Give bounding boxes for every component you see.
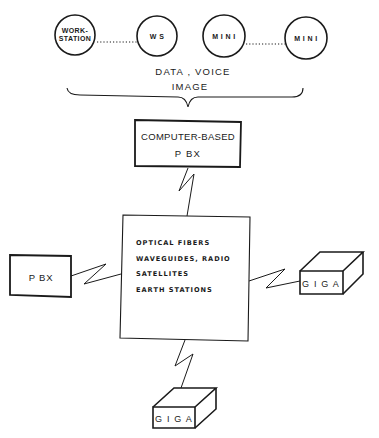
- mini-2-label: M I N I: [294, 35, 317, 42]
- wireless-link-right: [249, 269, 300, 288]
- node-mini-2: M I N I: [285, 17, 327, 59]
- workstation-label-1: WORK-: [62, 27, 89, 34]
- computer-pbx-label-2: P BX: [175, 148, 201, 159]
- giga-right-label: G I G A: [302, 279, 340, 289]
- node-mini-1: M I N I: [203, 15, 245, 57]
- computer-based-pbx-box: COMPUTER-BASED P BX: [135, 120, 241, 167]
- ws-label: W S: [150, 33, 164, 40]
- wireless-link-top: [179, 168, 194, 216]
- pbx-label: P BX: [29, 272, 54, 283]
- node-workstation: WORK- STATION: [55, 15, 95, 55]
- workstation-label-2: STATION: [59, 35, 91, 42]
- computer-pbx-label-1: COMPUTER-BASED: [141, 131, 235, 142]
- wireless-link-bottom: [175, 340, 193, 388]
- traffic-label-2: IMAGE: [172, 81, 209, 92]
- media-item-1: OPTICAL FIBERS: [136, 239, 210, 247]
- giga-bottom-label: G I G A: [155, 414, 193, 424]
- wireless-link-left: [71, 264, 121, 284]
- node-ws: W S: [137, 16, 177, 56]
- network-diagram: WORK- STATION W S M I N I M I N I DATA ,…: [0, 0, 379, 438]
- traffic-label-1: DATA , VOICE: [155, 66, 230, 77]
- giga-right-box: G I G A: [300, 252, 363, 294]
- media-item-2: WAVEGUIDES, RADIO: [136, 255, 231, 263]
- media-item-3: SATELLITES: [136, 270, 189, 278]
- pbx-box: P BX: [10, 255, 71, 297]
- giga-bottom-box: G I G A: [153, 388, 216, 428]
- transmission-media-box: OPTICAL FIBERS WAVEGUIDES, RADIO SATELLI…: [120, 215, 250, 341]
- mini-1-label: M I N I: [212, 33, 235, 40]
- media-item-4: EARTH STATIONS: [136, 286, 213, 294]
